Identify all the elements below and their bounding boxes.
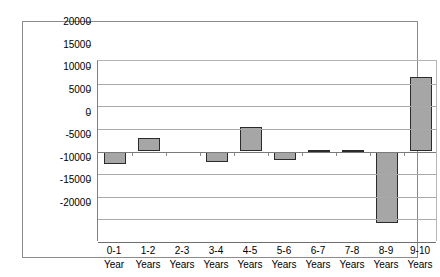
gridline bbox=[98, 152, 436, 153]
bar bbox=[240, 127, 262, 152]
gridline bbox=[98, 84, 436, 85]
x-axis-category-label: 5-6Years bbox=[267, 244, 301, 277]
x-axis-category-label: 2-3Years bbox=[165, 244, 199, 277]
gridline bbox=[98, 242, 436, 243]
x-axis-category-label-line: 8-9 bbox=[369, 244, 403, 258]
y-axis-tick-label: -15000 bbox=[29, 175, 91, 185]
x-axis-category-label-line: 9-10 bbox=[403, 244, 437, 258]
x-axis-category-label: 4-5Years bbox=[233, 244, 267, 277]
x-axis-category-label-line: 3-4 bbox=[199, 244, 233, 258]
x-axis-category-label-line: Years bbox=[335, 258, 369, 272]
bar bbox=[410, 77, 432, 152]
x-axis-category-label-line: Years bbox=[301, 258, 335, 272]
bar bbox=[138, 138, 160, 151]
y-axis-tick-label: -10000 bbox=[29, 153, 91, 163]
gridline bbox=[98, 219, 436, 220]
x-axis-category-label: 1-2Years bbox=[131, 244, 165, 277]
x-axis-category-label-line: Year bbox=[97, 258, 131, 272]
plot-area bbox=[97, 60, 437, 241]
y-axis-tick-label: 15000 bbox=[29, 40, 91, 50]
y-axis-tick-label: 10000 bbox=[29, 62, 91, 72]
x-axis-category-label-line: Years bbox=[131, 258, 165, 272]
y-axis-tick-label: 0 bbox=[29, 108, 91, 118]
x-axis-category-label: 8-9Years bbox=[369, 244, 403, 277]
x-axis-category-label-line: Years bbox=[369, 258, 403, 272]
bar bbox=[376, 152, 398, 223]
x-axis-category-label-line: 5-6 bbox=[267, 244, 301, 258]
x-axis-category-label-line: 6-7 bbox=[301, 244, 335, 258]
x-axis-category-label-line: 1-2 bbox=[131, 244, 165, 258]
bar bbox=[104, 152, 126, 164]
x-axis-category-label-line: Years bbox=[165, 258, 199, 272]
gridline bbox=[98, 197, 436, 198]
x-axis-category-label: 3-4Years bbox=[199, 244, 233, 277]
x-axis-category-label-line: 0-1 bbox=[97, 244, 131, 258]
y-axis-tick-label: -20000 bbox=[29, 198, 91, 208]
x-axis-category-label-line: 2-3 bbox=[165, 244, 199, 258]
y-axis-tick-label: -5000 bbox=[29, 130, 91, 140]
x-axis-category-labels: 0-1Year1-2Years2-3Years3-4Years4-5Years5… bbox=[97, 244, 437, 277]
y-axis-tick-label: 5000 bbox=[29, 85, 91, 95]
y-axis-tick-label: 20000 bbox=[29, 17, 91, 27]
gridline bbox=[98, 174, 436, 175]
x-axis-category-label: 9-10Years bbox=[403, 244, 437, 277]
bar bbox=[206, 152, 228, 162]
x-axis-category-label-line: Years bbox=[267, 258, 301, 272]
bar bbox=[274, 152, 296, 160]
x-axis-category-label: 7-8Years bbox=[335, 244, 369, 277]
chart-frame: 20000150001000050000-5000-10000-15000-20… bbox=[22, 21, 418, 258]
gridline bbox=[98, 106, 436, 107]
gridline bbox=[98, 129, 436, 130]
x-axis-category-label-line: 7-8 bbox=[335, 244, 369, 258]
x-axis-category-label-line: Years bbox=[403, 258, 437, 272]
x-axis-category-label: 0-1Year bbox=[97, 244, 131, 277]
x-axis-category-label-line: Years bbox=[199, 258, 233, 272]
x-axis-category-label-line: Years bbox=[233, 258, 267, 272]
y-axis: 20000150001000050000-5000-10000-15000-20… bbox=[23, 22, 91, 203]
x-axis-category-label: 6-7Years bbox=[301, 244, 335, 277]
bar-chart: 20000150001000050000-5000-10000-15000-20… bbox=[0, 0, 440, 277]
x-axis-category-label-line: 4-5 bbox=[233, 244, 267, 258]
